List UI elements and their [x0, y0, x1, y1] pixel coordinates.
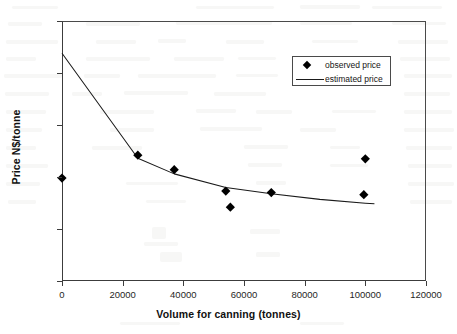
observed-price-point [226, 203, 235, 212]
ytick-2500 [57, 21, 62, 22]
legend-item-observed-price: observed price [293, 58, 392, 72]
chart-figure: 2500 2000 1500 1000 500 0 0 20000 40000 … [0, 0, 457, 334]
y-axis-title: Price N$/tonne [10, 87, 22, 207]
legend-diamond-icon [293, 58, 325, 72]
xtick-100000 [365, 281, 366, 286]
xtick-label-0: 0 [32, 289, 92, 300]
legend-line-icon [293, 72, 325, 86]
observed-price-point [133, 151, 142, 160]
xtick-label-20000: 20000 [93, 289, 153, 300]
observed-price-markers [57, 151, 370, 212]
xtick-label-60000: 60000 [214, 289, 274, 300]
xtick-label-40000: 40000 [153, 289, 213, 300]
xtick-0 [62, 281, 63, 286]
observed-price-point [267, 188, 276, 197]
legend-item-estimated-price: estimated price [293, 72, 392, 86]
observed-price-point [57, 173, 66, 182]
ytick-500 [57, 229, 62, 230]
xtick-60000 [244, 281, 245, 286]
xtick-40000 [183, 281, 184, 286]
legend-label-observed-price: observed price [325, 60, 381, 70]
x-axis-title: Volume for canning (tonnes) [0, 308, 457, 320]
xtick-label-100000: 100000 [335, 289, 395, 300]
ytick-2000 [57, 73, 62, 74]
chart-legend: observed price estimated price [292, 56, 391, 86]
ytick-1000 [57, 177, 62, 178]
ytick-1500 [57, 125, 62, 126]
xtick-80000 [305, 281, 306, 286]
legend-label-estimated-price: estimated price [325, 74, 383, 84]
xtick-120000 [426, 281, 427, 286]
xtick-label-120000: 120000 [396, 289, 456, 300]
xtick-label-80000: 80000 [275, 289, 335, 300]
observed-price-point [359, 190, 368, 199]
observed-price-point [361, 154, 370, 163]
xtick-20000 [123, 281, 124, 286]
